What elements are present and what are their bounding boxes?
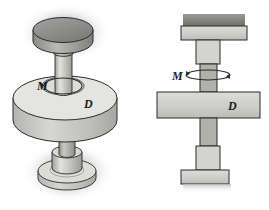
front-label-M: M xyxy=(171,69,183,83)
iso-label-M: M xyxy=(36,79,48,93)
front-lower-collar xyxy=(196,146,220,170)
front-bottom-cap xyxy=(181,170,229,184)
figure-canvas: M D M D xyxy=(0,0,269,210)
front-mid-shaft xyxy=(200,64,217,92)
front-top-cap xyxy=(181,26,247,40)
front-view: M D xyxy=(157,14,260,193)
iso-label-D: D xyxy=(83,97,93,111)
front-bottom-shadow xyxy=(183,184,231,193)
front-upper-shaft xyxy=(196,40,220,64)
front-lower-shaft xyxy=(200,118,217,146)
front-top-shadow xyxy=(183,14,245,26)
front-plate-D xyxy=(157,92,260,118)
front-label-D: D xyxy=(227,99,237,113)
mechanics-figure-svg: M D M D xyxy=(0,0,269,210)
iso-top-cap xyxy=(33,18,93,54)
